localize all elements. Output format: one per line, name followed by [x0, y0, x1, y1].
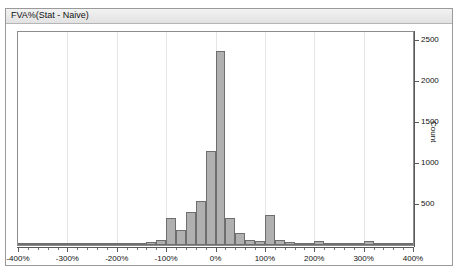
- x-axis-tick-minor: [324, 248, 325, 250]
- histogram-bar: [67, 243, 77, 245]
- y-axis-label: 2500: [421, 35, 439, 44]
- histogram-bar: [255, 241, 265, 246]
- histogram-bar: [137, 243, 147, 245]
- x-axis-tick-minor: [383, 248, 384, 250]
- histogram-bar: [97, 243, 107, 245]
- x-axis-tick-minor: [245, 248, 246, 250]
- x-axis-tick-minor: [196, 248, 197, 250]
- histogram-bar: [324, 243, 334, 245]
- page-title: FVA%(Stat - Naive): [11, 10, 89, 20]
- x-axis-tick-minor: [28, 248, 29, 250]
- histogram-bar: [216, 51, 226, 245]
- x-axis-tick-minor: [225, 248, 226, 250]
- histogram-bar: [245, 240, 255, 245]
- x-axis-label: 400%: [391, 254, 435, 263]
- x-axis-tick-minor: [97, 248, 98, 250]
- histogram-bar: [285, 242, 295, 245]
- y-axis-tick: [415, 204, 419, 205]
- x-axis-label: -300%: [45, 254, 89, 263]
- histogram-bar: [304, 243, 314, 245]
- histogram-bar: [77, 243, 87, 245]
- x-axis-tick-minor: [275, 248, 276, 250]
- histogram-bar: [383, 243, 393, 245]
- histogram-bar: [166, 218, 176, 245]
- x-axis-label: -100%: [144, 254, 188, 263]
- x-axis-tick-minor: [38, 248, 39, 250]
- y-axis-label: 2000: [421, 76, 439, 85]
- histogram-bars: [18, 32, 413, 245]
- x-axis-tick: [413, 248, 414, 252]
- x-axis-tick-minor: [255, 248, 256, 250]
- y-axis-caption: Count: [429, 121, 438, 142]
- histogram-bar: [58, 243, 68, 245]
- x-axis-label: 200%: [292, 254, 336, 263]
- histogram-bar: [117, 243, 127, 245]
- histogram-bar: [28, 243, 38, 245]
- x-axis-tick-minor: [235, 248, 236, 250]
- x-axis-tick-minor: [176, 248, 177, 250]
- x-axis-tick-minor: [334, 248, 335, 250]
- histogram-bar: [107, 243, 117, 245]
- x-axis-tick-minor: [137, 248, 138, 250]
- histogram-bar: [275, 240, 285, 245]
- histogram-bar: [87, 243, 97, 245]
- x-axis-tick: [216, 248, 217, 252]
- histogram-bar: [225, 218, 235, 245]
- x-axis-tick-minor: [58, 248, 59, 250]
- histogram-bar: [156, 240, 166, 245]
- x-axis-label: -400%: [0, 254, 40, 263]
- histogram-bar: [18, 243, 28, 245]
- x-axis-label: 100%: [243, 254, 287, 263]
- y-axis-label: 500: [421, 199, 434, 208]
- y-axis-tick: [415, 163, 419, 164]
- x-axis-tick-minor: [146, 248, 147, 250]
- x-axis-tick: [364, 248, 365, 252]
- histogram-bar: [146, 242, 156, 245]
- y-axis-tick: [415, 81, 419, 82]
- x-axis-tick-minor: [48, 248, 49, 250]
- x-axis-tick: [166, 248, 167, 252]
- x-axis-tick-minor: [374, 248, 375, 250]
- x-axis-tick: [18, 248, 19, 252]
- x-axis-tick-minor: [304, 248, 305, 250]
- x-axis-tick-minor: [156, 248, 157, 250]
- x-axis-tick-minor: [393, 248, 394, 250]
- histogram-bar: [295, 243, 305, 245]
- chart-panel: FVA%(Stat - Naive) -400%-300%-200%-100%0…: [5, 8, 453, 266]
- histogram-bar: [48, 243, 58, 245]
- x-axis-tick: [67, 248, 68, 252]
- plot-area: [17, 31, 414, 246]
- x-axis-label: -200%: [95, 254, 139, 263]
- x-axis-tick-minor: [186, 248, 187, 250]
- histogram-bar: [38, 243, 48, 245]
- x-axis-label: 300%: [342, 254, 386, 263]
- y-axis-line: [414, 31, 415, 247]
- x-axis-label: 0%: [194, 254, 238, 263]
- histogram-bar: [176, 230, 186, 245]
- histogram-bar: [314, 241, 324, 245]
- histogram-bar: [186, 212, 196, 245]
- x-axis-tick: [314, 248, 315, 252]
- x-axis-tick-minor: [107, 248, 108, 250]
- histogram-bar: [334, 243, 344, 245]
- x-axis-tick-minor: [285, 248, 286, 250]
- y-axis-label: 1000: [421, 158, 439, 167]
- histogram-bar: [235, 233, 245, 245]
- histogram-bar: [364, 241, 374, 246]
- histogram-bar: [354, 243, 364, 245]
- x-axis-tick: [265, 248, 266, 252]
- x-axis-tick-minor: [354, 248, 355, 250]
- y-axis-tick: [415, 40, 419, 41]
- histogram-bar: [344, 243, 354, 245]
- histogram-bar: [374, 243, 384, 245]
- panel-title-bar: FVA%(Stat - Naive): [6, 9, 452, 24]
- y-axis-tick: [415, 122, 419, 123]
- x-axis-tick-minor: [344, 248, 345, 250]
- histogram-bar: [403, 243, 413, 245]
- histogram-bar: [127, 243, 137, 245]
- x-axis-tick-minor: [87, 248, 88, 250]
- x-axis-tick-minor: [127, 248, 128, 250]
- x-axis-tick-minor: [206, 248, 207, 250]
- histogram-bar: [393, 243, 403, 245]
- histogram-bar: [206, 151, 216, 245]
